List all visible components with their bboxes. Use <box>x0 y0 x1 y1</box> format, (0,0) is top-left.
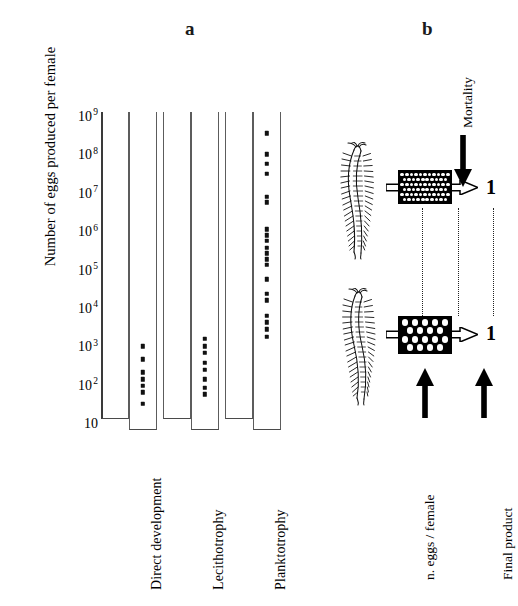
egg-dot <box>419 173 423 177</box>
egg-dot <box>446 183 450 187</box>
egg-mass-box-many-small <box>398 170 452 204</box>
data-point <box>203 385 207 389</box>
egg-dot <box>405 183 409 187</box>
data-point <box>141 344 145 348</box>
data-channel <box>253 112 281 430</box>
tick-exponent: 5 <box>93 261 98 271</box>
egg-dot <box>425 188 429 192</box>
egg-dot <box>419 183 423 187</box>
eggs-per-female-arrow-up-icon <box>416 368 434 418</box>
tick-mantissa: 10 <box>78 263 92 278</box>
data-point <box>265 246 269 250</box>
y-axis-tick-5: 105 <box>52 264 98 278</box>
egg-mass-box-few-large <box>398 316 452 354</box>
tick-mantissa: 10 <box>78 339 92 354</box>
egg-dot <box>412 336 419 343</box>
y-axis-tick-3: 103 <box>52 340 98 354</box>
x-axis-label-planktotrophy: Planktotrophy <box>273 509 289 590</box>
data-point <box>265 239 269 243</box>
final-product-arrow-up-icon <box>475 368 493 418</box>
egg-dot <box>407 198 411 202</box>
egg-dot <box>407 327 414 334</box>
egg-dot <box>410 183 414 187</box>
egg-dot <box>442 319 449 326</box>
egg-dot <box>441 173 445 177</box>
data-point <box>265 314 269 318</box>
egg-dots-many <box>400 172 450 202</box>
egg-dot <box>446 173 450 177</box>
egg-dot <box>416 178 420 182</box>
data-point <box>265 335 269 339</box>
dotted-guide-line <box>493 208 494 316</box>
egg-dot <box>439 178 443 182</box>
axis-channel <box>225 112 253 419</box>
tick-mantissa: 10 <box>78 378 92 393</box>
y-axis-tick-1: 10 <box>52 417 98 431</box>
mortality-arrow-down-icon <box>454 135 472 187</box>
tick-exponent: 9 <box>93 107 98 117</box>
x-axis-label-lecithotrophy: Lecithotrophy <box>211 509 227 590</box>
egg-dot <box>423 183 427 187</box>
egg-dots-few <box>400 318 450 352</box>
data-point <box>141 402 145 406</box>
egg-dot <box>437 327 444 334</box>
data-point <box>203 367 207 371</box>
data-point <box>203 392 207 396</box>
mortality-label: Mortality <box>460 77 476 128</box>
tick-mantissa: 10 <box>78 301 92 316</box>
data-point <box>141 390 145 394</box>
egg-dot <box>421 178 425 182</box>
data-channel <box>191 112 219 430</box>
egg-dot <box>432 319 439 326</box>
egg-dot <box>421 198 425 202</box>
egg-dot <box>437 183 441 187</box>
egg-dot <box>403 188 407 192</box>
egg-dot <box>400 173 404 177</box>
figure-root: a b Number of eggs produced per female 1… <box>0 0 518 606</box>
egg-dot <box>435 198 439 202</box>
egg-dot <box>419 193 423 197</box>
data-point <box>265 292 269 296</box>
egg-dot <box>430 178 434 182</box>
panel-a-scatter-chart: Number of eggs produced per female 10910… <box>0 0 310 606</box>
final-product-count-bottom: 1 <box>486 322 496 345</box>
data-point <box>203 351 207 355</box>
data-point <box>141 357 145 361</box>
x-axis-label-direct-development: Direct development <box>149 477 165 590</box>
egg-dot <box>446 193 450 197</box>
data-point <box>203 337 207 341</box>
data-point <box>203 361 207 365</box>
data-point <box>203 377 207 381</box>
egg-dot <box>403 198 407 202</box>
data-point <box>265 195 269 199</box>
egg-dot <box>442 336 449 343</box>
egg-dot <box>417 327 424 334</box>
eggs-per-female-label: n. eggs / female <box>422 495 438 580</box>
egg-dot <box>432 183 436 187</box>
egg-dot <box>435 178 439 182</box>
egg-dot <box>444 178 448 182</box>
data-point <box>265 200 269 204</box>
egg-dot <box>414 173 418 177</box>
y-axis-tick-6: 106 <box>52 225 98 239</box>
polychaete-worm-icon <box>334 142 380 260</box>
egg-dot <box>410 173 414 177</box>
egg-dot <box>405 173 409 177</box>
egg-dot <box>437 344 444 351</box>
y-axis-tick-labels: 10910810710610510410310210 <box>52 0 98 606</box>
tick-exponent: 8 <box>93 146 98 156</box>
tick-exponent: 3 <box>93 338 98 348</box>
egg-dot <box>400 193 404 197</box>
data-point <box>265 320 269 324</box>
axis-channel <box>101 112 129 419</box>
data-point <box>265 227 269 231</box>
data-point <box>265 131 269 135</box>
tick-exponent: 7 <box>93 184 98 194</box>
tick-mantissa: 10 <box>78 224 92 239</box>
y-axis-tick-9: 109 <box>52 110 98 124</box>
tick-mantissa: 10 <box>78 147 92 162</box>
egg-dot <box>412 319 419 326</box>
egg-dot <box>423 173 427 177</box>
egg-dot <box>423 193 427 197</box>
egg-dot <box>430 188 434 192</box>
